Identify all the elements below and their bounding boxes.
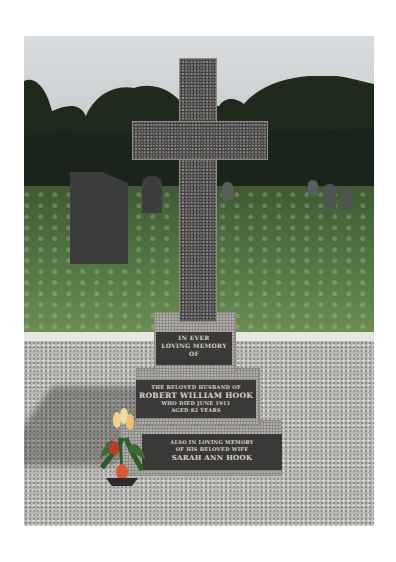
inscription-line: THE BELOVED HUSBAND OF: [136, 384, 256, 391]
inscription-panel-middle: THE BELOVED HUSBAND OF ROBERT WILLIAM HO…: [136, 380, 256, 418]
headstone: [340, 188, 352, 210]
inscription-line: LOVING MEMORY: [156, 342, 232, 350]
photograph: IN EVER LOVING MEMORY OF THE BELOVED HUS…: [24, 36, 374, 526]
inscription-line: OF: [156, 350, 232, 358]
inscription-line: IN EVER: [156, 334, 232, 342]
tulip-icon: [116, 464, 128, 480]
inscription-panel-top: IN EVER LOVING MEMORY OF: [156, 332, 232, 365]
inscription-line: AGED 82 YEARS: [136, 407, 256, 414]
headstone: [142, 176, 162, 213]
tulip-icon: [109, 441, 119, 455]
inscription-line: WHO DIED JUNE 1911: [136, 400, 256, 407]
cross-arm: [132, 121, 268, 160]
headstone: [324, 184, 336, 210]
inscription-name: SARAH ANN HOOK: [142, 453, 282, 462]
inscription-line: ALSO IN LOVING MEMORY: [142, 439, 282, 446]
inscription-line: OF HIS BELOVED WIFE: [142, 446, 282, 453]
inscription-name: ROBERT WILLIAM HOOK: [136, 391, 256, 400]
headstone: [222, 182, 233, 200]
tulip-bouquet: [92, 398, 152, 488]
tulip-icon: [113, 412, 121, 428]
tulip-icon: [126, 414, 134, 430]
headstone: [70, 172, 128, 264]
cross-upright: [179, 58, 217, 322]
inscription-panel-bottom: ALSO IN LOVING MEMORY OF HIS BELOVED WIF…: [142, 434, 282, 470]
headstone: [308, 180, 318, 196]
